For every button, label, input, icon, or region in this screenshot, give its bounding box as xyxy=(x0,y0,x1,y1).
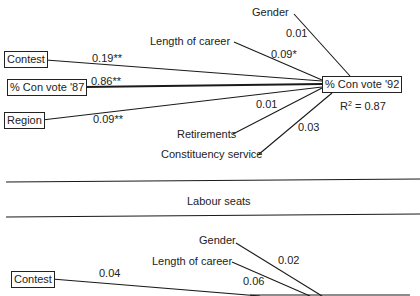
lab-coef-gender: 0.02 xyxy=(278,254,299,267)
coef-region: 0.09** xyxy=(93,113,123,126)
predictor-box-con-vote-87: % Con vote '87 xyxy=(7,79,87,96)
predictor-label-retirements: Retirements xyxy=(177,128,236,141)
r-squared: R2 = 0.87 xyxy=(340,97,386,113)
coef-length-of-career: 0.09* xyxy=(271,48,297,61)
path-lab-contest xyxy=(52,279,260,296)
coef-contest: 0.19** xyxy=(92,52,122,65)
path-gender-to-con92 xyxy=(294,14,350,76)
divider-bottom xyxy=(6,214,420,217)
r-squared-value: = 0.87 xyxy=(352,100,386,112)
coef-retirements: 0.01 xyxy=(256,98,277,111)
lab-coef-length-of-career: 0.06 xyxy=(243,275,264,288)
lab-predictor-label-length-of-career: Length of career xyxy=(152,255,232,268)
predictor-box-contest: Contest xyxy=(4,51,48,68)
r-squared-symbol: R xyxy=(340,100,348,112)
predictor-label-length-of-career: Length of career xyxy=(150,35,230,48)
coef-con-vote-87: 0.86** xyxy=(91,75,121,88)
path-contest-to-con92 xyxy=(46,60,322,81)
lab-predictor-box-contest: Contest xyxy=(11,271,55,288)
lab-coef-contest: 0.04 xyxy=(99,267,120,280)
section-title-labour-seats: Labour seats xyxy=(187,195,251,208)
dependent-box-con-vote-92: % Con vote '92 xyxy=(322,76,402,93)
predictor-label-constituency-service: Constituency service xyxy=(161,148,263,161)
lab-predictor-label-gender: Gender xyxy=(199,234,236,247)
coef-gender: 0.01 xyxy=(286,27,307,40)
predictor-box-region: Region xyxy=(4,112,45,129)
predictor-label-gender: Gender xyxy=(252,6,289,19)
coef-constituency-service: 0.03 xyxy=(298,121,319,134)
divider-top xyxy=(6,179,420,182)
